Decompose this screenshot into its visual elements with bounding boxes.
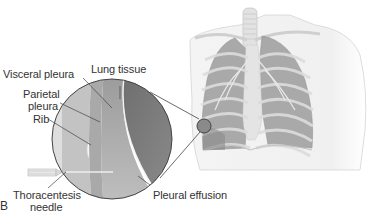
thoracentesis-diagram: Visceral pleura Lung tissue Parietal ple… <box>0 0 371 217</box>
label-rib: Rib <box>33 113 49 125</box>
label-pleural-effusion: Pleural effusion <box>153 189 227 201</box>
label-parietal-pleura-line1: Parietal <box>23 88 60 100</box>
torso <box>190 8 366 170</box>
focus-circle <box>197 119 211 133</box>
panel-label: B <box>0 199 8 213</box>
label-lung-tissue: Lung tissue <box>91 63 146 75</box>
label-thoracentesis-line1: Thoracentesis <box>13 189 81 201</box>
label-thoracentesis-line2: needle <box>30 201 62 213</box>
label-visceral-pleura: Visceral pleura <box>3 68 74 80</box>
label-parietal-pleura-line2: pleura <box>28 100 58 112</box>
needle-hub <box>28 169 62 176</box>
